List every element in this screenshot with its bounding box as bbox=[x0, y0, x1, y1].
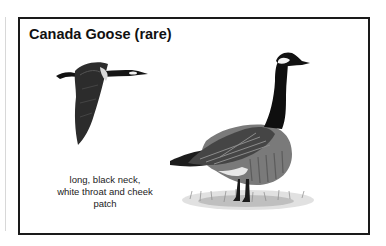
caption-line: white throat and cheek bbox=[50, 186, 160, 198]
identification-caption: long, black neck, white throat and cheek… bbox=[50, 174, 160, 210]
side-divider bbox=[5, 17, 6, 231]
caption-line: long, black neck, bbox=[50, 174, 160, 186]
species-card: Canada Goose (rare) bbox=[18, 17, 370, 235]
caption-line: patch bbox=[50, 198, 160, 210]
